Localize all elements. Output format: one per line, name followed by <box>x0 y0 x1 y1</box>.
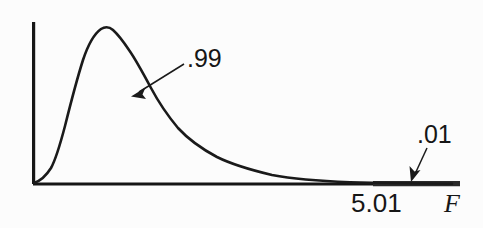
leader-line-99 <box>131 64 184 99</box>
x-axis-label: F <box>444 191 460 217</box>
arrowhead-01 <box>410 166 421 182</box>
arrowhead-99 <box>131 88 146 100</box>
critical-value-label: 5.01 <box>351 190 402 216</box>
leader-line-01 <box>410 148 428 182</box>
density-curve <box>34 27 452 183</box>
f-distribution-chart <box>0 0 483 228</box>
figure-container: .99 .01 5.01 F <box>0 0 483 228</box>
area-label-right: .01 <box>417 122 452 147</box>
area-label-left: .99 <box>187 46 222 71</box>
